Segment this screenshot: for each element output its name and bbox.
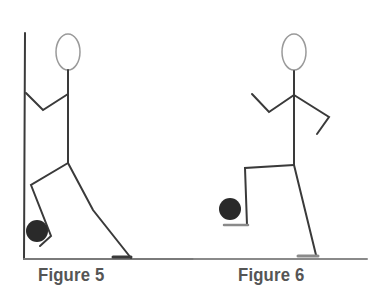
- head: [56, 34, 80, 70]
- right-arm: [294, 95, 329, 134]
- left-arm: [252, 94, 294, 112]
- diagram-canvas: [0, 0, 388, 293]
- figure-5-caption: Figure 5: [38, 264, 104, 286]
- arm: [26, 93, 68, 110]
- figure-5: [24, 33, 194, 259]
- ball-icon: [219, 198, 241, 220]
- head: [282, 34, 306, 70]
- support-leg: [68, 163, 131, 258]
- support-leg: [294, 165, 316, 255]
- raised-leg: [245, 165, 294, 225]
- ball-icon: [26, 220, 48, 242]
- wall-line: [24, 33, 25, 259]
- figure-6-caption: Figure 6: [238, 264, 304, 286]
- figure-6: [194, 34, 367, 259]
